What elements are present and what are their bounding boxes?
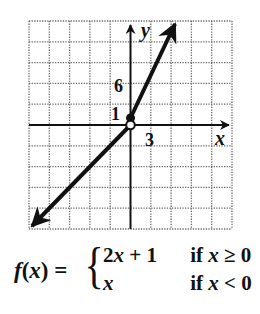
coef: 2 [103,243,114,267]
if-keyword: if [190,243,208,267]
constant: + 1 [124,243,157,267]
tick-label-y-1: 1 [111,104,120,124]
formula-case-2: x if x < 0 [103,271,252,296]
relation: < 0 [219,271,252,295]
formula-case-1: 2x + 1 if x ≥ 0 [103,243,251,268]
tick-label-x-3: 3 [145,130,154,150]
var: x [103,271,114,295]
var: x [114,243,125,267]
case-1-expression: 2x + 1 [103,243,173,268]
paren-close-equals: ) = [41,258,68,283]
function-name: f [14,258,22,283]
case-1-condition: if x ≥ 0 [190,243,251,268]
if-keyword: if [190,271,208,295]
case-2-expression: x [103,271,173,296]
piecewise-graph: y x 6 1 3 [0,0,260,240]
brace: { [84,240,103,290]
var: x [208,243,219,267]
y-axis-label: y [139,19,150,42]
case-2-condition: if x < 0 [190,271,252,296]
formula-lhs: f(x) = [14,258,67,284]
x-axis-label: x [214,127,225,149]
open-point-icon [126,121,135,130]
line-segment-x-negative [32,125,131,226]
relation: ≥ 0 [219,243,252,267]
line-segment-x-nonnegative [131,24,176,118]
piecewise-formula: f(x) = { 2x + 1 if x ≥ 0 x if x < 0 [0,236,260,306]
var: x [208,271,219,295]
function-variable: x [29,258,41,283]
tick-label-y-6: 6 [114,76,123,96]
